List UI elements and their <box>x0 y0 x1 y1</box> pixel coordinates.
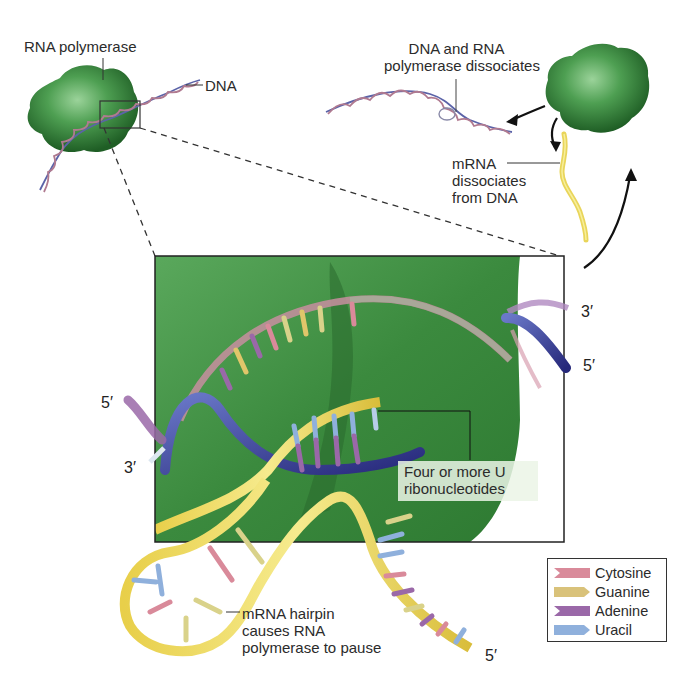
legend-label: Cytosine <box>595 565 651 581</box>
label-dna-rnap-dissociates: DNA and RNA polymerase dissociates <box>384 40 529 74</box>
label-line: from DNA <box>452 189 526 206</box>
legend: Cytosine Guanine Adenine Uracil <box>547 558 667 642</box>
label-mrna-hairpin: mRNA hairpin causes RNA polymerase to pa… <box>242 605 381 656</box>
legend-label: Adenine <box>595 603 648 619</box>
label-line: polymerase dissociates <box>384 57 529 74</box>
label-left-5prime: 5′ <box>101 394 113 412</box>
label-line: mRNA hairpin <box>242 605 381 622</box>
rna-polymerase-released <box>546 44 650 133</box>
label-line: ribonucleotides <box>404 480 506 497</box>
label-left-3prime: 3′ <box>124 459 136 477</box>
label-dna: DNA <box>205 77 237 94</box>
uracil-swatch-icon <box>554 625 590 635</box>
label-line: DNA and RNA <box>384 40 529 57</box>
adenine-swatch-icon <box>554 606 590 616</box>
legend-label: Uracil <box>595 622 632 638</box>
label-line: dissociates <box>452 172 526 189</box>
label-right-5prime: 5′ <box>583 357 595 375</box>
label-right-3prime: 3′ <box>581 303 593 321</box>
label-four-u-ribonucleotides: Four or more U ribonucleotides <box>404 463 506 497</box>
legend-item-uracil: Uracil <box>554 620 660 639</box>
label-line: polymerase to pause <box>242 639 381 656</box>
mrna-released <box>562 134 586 240</box>
label-mrna-dissociates: mRNA dissociates from DNA <box>452 155 526 206</box>
guanine-swatch-icon <box>554 587 590 597</box>
dna-helix-released <box>326 90 512 134</box>
label-line: causes RNA <box>242 622 381 639</box>
label-line: mRNA <box>452 155 526 172</box>
label-mrna-5prime: 5′ <box>485 647 497 665</box>
label-line: Four or more U <box>404 463 506 480</box>
legend-item-cytosine: Cytosine <box>554 563 660 582</box>
legend-item-adenine: Adenine <box>554 601 660 620</box>
legend-item-guanine: Guanine <box>554 582 660 601</box>
label-rna-polymerase: RNA polymerase <box>24 38 137 55</box>
rna-polymerase-top-left <box>28 65 139 152</box>
legend-label: Guanine <box>595 584 650 600</box>
cytosine-swatch-icon <box>554 568 590 578</box>
